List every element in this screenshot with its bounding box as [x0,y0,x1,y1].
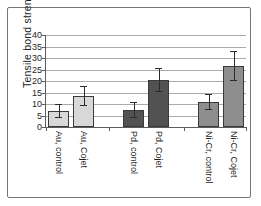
x-label-au-control: Au, control [53,131,64,174]
error-bar-line [234,51,235,82]
gridline-20 [46,81,246,82]
error-bar-cap-bottom [205,109,212,110]
error-bar-ni-cr-control [205,94,212,110]
error-bar-pd-cojet [155,68,162,91]
error-bar-au-control [55,104,62,118]
y-tick-label-20: 20 [24,76,42,87]
y-tick-label-0: 0 [24,122,42,133]
x-label-au-cojet: Au, Cojet [78,131,89,168]
x-tick-mark-3 [246,128,247,131]
error-bar-cap-bottom [155,91,162,92]
error-bar-ni-cr-cojet [230,51,237,82]
error-bar-line [134,102,135,117]
error-bar-cap-top [155,68,162,69]
error-bar-cap-top [55,104,62,105]
error-bar-pd-control [130,102,137,117]
chart-frame: Tensile bond strength (MPa) 051015202530… [7,7,251,198]
error-bar-cap-top [230,51,237,52]
error-bar-cap-top [205,94,212,95]
y-tick-label-30: 30 [24,53,42,64]
gridline-35 [46,47,246,48]
x-label-ni-cr-cojet: Ni-Cr, Cojet [228,131,239,178]
plot-area [46,35,246,127]
gridline-25 [46,70,246,71]
y-tick-label-35: 35 [24,42,42,53]
y-tick-label-40: 40 [24,30,42,41]
x-label-pd-control: Pd, control [128,131,139,174]
error-bar-cap-bottom [230,80,237,81]
x-label-pd-cojet: Pd, Cojet [153,131,164,168]
x-tick-mark-0 [46,128,47,131]
y-tick-label-5: 5 [24,111,42,122]
x-tick-mark-1 [109,128,110,131]
error-bar-cap-bottom [55,117,62,118]
error-bar-line [84,86,85,105]
error-bar-cap-bottom [80,105,87,106]
y-tick-label-15: 15 [24,88,42,99]
error-bar-cap-top [130,102,137,103]
figure-screenshot: { "figure": { "background": "#ffffff", "… [0,0,261,206]
y-tick-label-25: 25 [24,65,42,76]
y-axis-line [45,35,46,128]
error-bar-cap-bottom [130,117,137,118]
x-tick-mark-2 [184,128,185,131]
error-bar-line [159,68,160,91]
y-tick-label-10: 10 [24,99,42,110]
error-bar-cap-top [80,86,87,87]
error-bar-line [209,94,210,110]
gridline-15 [46,93,246,94]
error-bar-au-cojet [80,86,87,105]
gridline-30 [46,58,246,59]
x-axis-line [45,127,247,128]
gridline-40 [46,35,246,36]
error-bar-line [59,104,60,118]
x-label-ni-cr-control: Ni-Cr, control [203,131,214,184]
